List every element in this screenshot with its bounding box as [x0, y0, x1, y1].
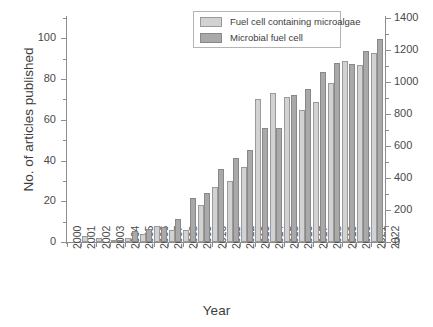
- y-tick-label-left: 40: [16, 154, 56, 166]
- bar: [154, 226, 160, 242]
- x-tick: [110, 243, 111, 247]
- bar: [218, 169, 224, 242]
- x-tick: [240, 243, 241, 247]
- y-minor-tick-right: [386, 98, 389, 99]
- y-tick-label-right: 600: [394, 139, 433, 151]
- bar: [255, 99, 261, 242]
- x-tick: [327, 243, 328, 247]
- y-tick-label-left: 20: [16, 194, 56, 206]
- bar: [363, 51, 369, 242]
- y-tick-label-left: 80: [16, 72, 56, 84]
- bar: [233, 158, 239, 242]
- bar: [111, 240, 117, 242]
- x-tick: [139, 243, 140, 247]
- y-minor-tick-right: [386, 162, 389, 163]
- x-tick: [385, 243, 386, 247]
- y-tick-label-right: 1200: [394, 43, 433, 55]
- x-tick: [342, 243, 343, 247]
- y-tick-left: [61, 161, 66, 162]
- bar: [175, 219, 181, 242]
- x-tick: [269, 243, 270, 247]
- y-minor-tick-right: [386, 130, 389, 131]
- y-tick-label-left: 100: [16, 31, 56, 43]
- y-tick-left: [61, 201, 66, 202]
- bar: [320, 72, 326, 242]
- bar-chart: No. of articles published Year 020406080…: [0, 0, 433, 327]
- y-minor-tick-left: [63, 181, 66, 182]
- bar: [313, 102, 319, 243]
- x-tick: [255, 243, 256, 247]
- bar: [146, 229, 152, 242]
- bar: [204, 193, 210, 242]
- bar: [140, 234, 146, 242]
- bar: [169, 230, 175, 242]
- x-tick: [212, 243, 213, 247]
- legend-swatch-icon: [200, 33, 222, 43]
- y-minor-tick-left: [63, 140, 66, 141]
- bar: [377, 39, 383, 242]
- bar: [227, 181, 233, 242]
- x-axis-title: Year: [0, 303, 433, 318]
- x-tick: [298, 243, 299, 247]
- y-tick-label-right: 400: [394, 171, 433, 183]
- legend-label: Fuel cell containing microalgae: [230, 16, 360, 27]
- y-minor-tick-right: [386, 66, 389, 67]
- bar: [357, 65, 363, 242]
- plot-area: [67, 18, 385, 242]
- y-minor-tick-left: [63, 18, 66, 19]
- x-tick: [125, 243, 126, 247]
- bar: [270, 93, 276, 242]
- y-tick-label-right: 800: [394, 107, 433, 119]
- y-tick-left: [61, 120, 66, 121]
- y-tick-label-left: 0: [16, 235, 56, 247]
- x-tick: [356, 243, 357, 247]
- bar: [284, 97, 290, 242]
- x-tick: [197, 243, 198, 247]
- legend-swatch-icon: [200, 17, 222, 27]
- legend-label: Microbial fuel cell: [230, 32, 303, 43]
- x-tick: [168, 243, 169, 247]
- bar: [82, 236, 88, 242]
- x-tick: [183, 243, 184, 247]
- bar: [305, 89, 311, 242]
- y-tick-right: [386, 82, 391, 83]
- x-tick: [67, 243, 68, 247]
- y-tick-label-left: 60: [16, 113, 56, 125]
- bar: [132, 231, 138, 242]
- y-tick-right: [386, 18, 391, 19]
- bar: [198, 205, 204, 242]
- bar: [276, 128, 282, 242]
- y-tick-left: [61, 79, 66, 80]
- bar: [334, 63, 340, 242]
- bar: [328, 83, 334, 242]
- x-tick: [313, 243, 314, 247]
- y-tick-label-right: 1400: [394, 11, 433, 23]
- y-minor-tick-left: [63, 59, 66, 60]
- x-tick: [154, 243, 155, 247]
- bar: [291, 95, 297, 242]
- bar: [349, 64, 355, 242]
- bar: [96, 238, 102, 242]
- y-tick-right: [386, 114, 391, 115]
- bar: [262, 128, 268, 242]
- bar: [299, 110, 305, 242]
- y-tick-right: [386, 50, 391, 51]
- y-tick-right: [386, 210, 391, 211]
- bar: [125, 238, 131, 242]
- y-tick-right: [386, 178, 391, 179]
- chart-legend: Fuel cell containing microalgae Microbia…: [193, 11, 341, 48]
- x-tick: [371, 243, 372, 247]
- x-tick: [226, 243, 227, 247]
- x-tick: [96, 243, 97, 247]
- y-tick-left: [61, 38, 66, 39]
- y-tick-right: [386, 146, 391, 147]
- bar: [371, 53, 377, 242]
- bar: [190, 198, 196, 242]
- y-tick-left: [61, 242, 66, 243]
- y-minor-tick-left: [63, 99, 66, 100]
- bar: [241, 167, 247, 242]
- bar: [183, 230, 189, 242]
- bar: [161, 227, 167, 242]
- y-tick-label-right: 1000: [394, 75, 433, 87]
- bar: [342, 61, 348, 242]
